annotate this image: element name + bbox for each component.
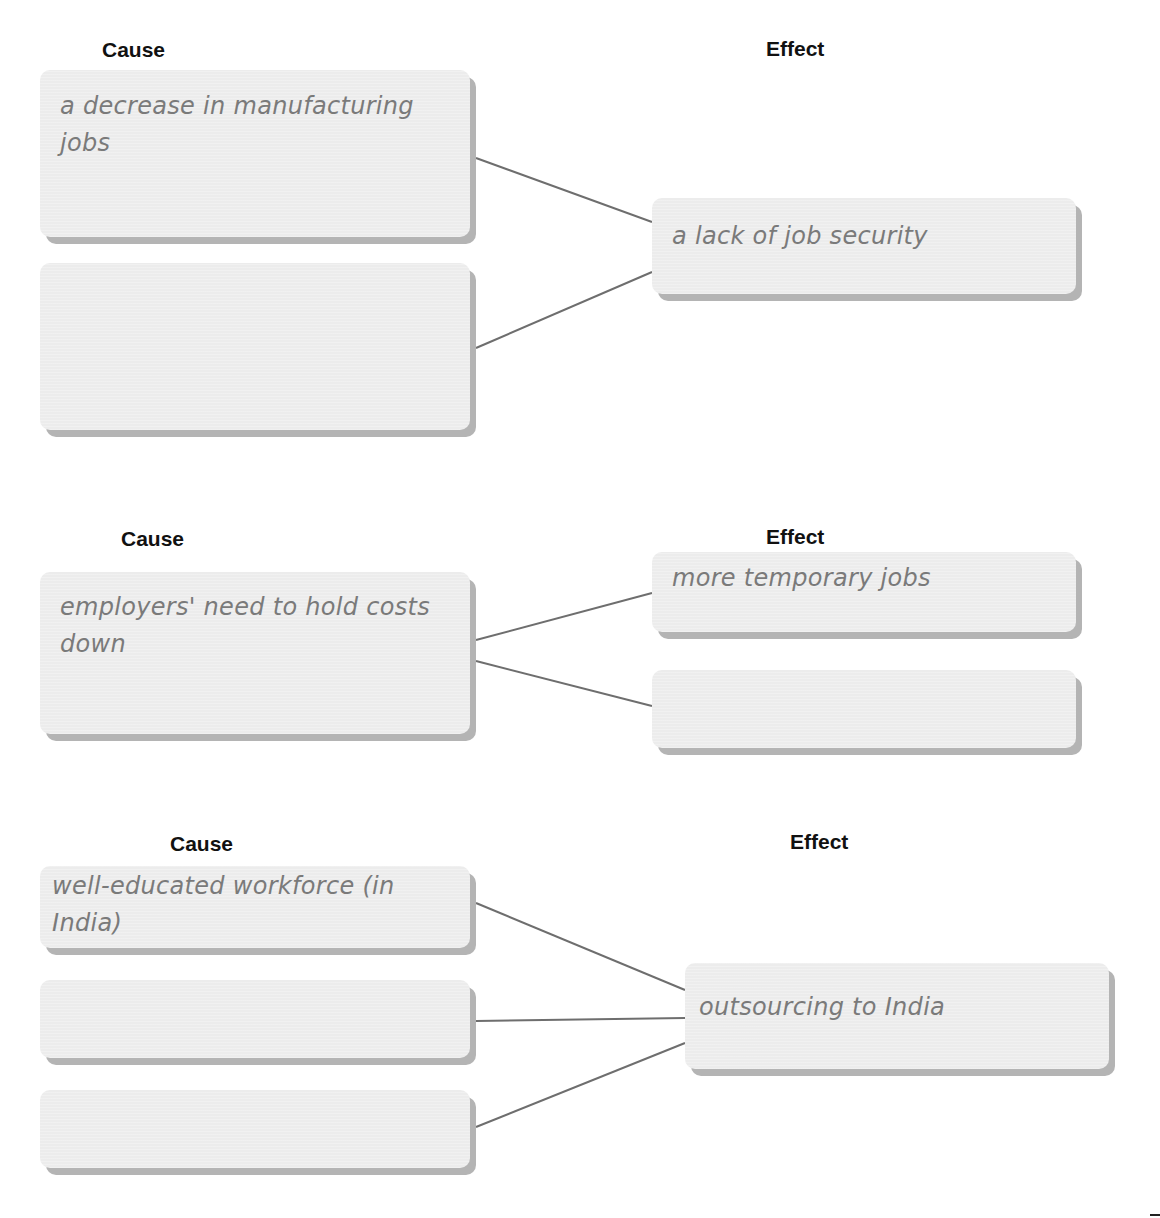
cause-text: a decrease in manufacturing jobs [60,88,450,162]
cause-text: well-educated workforce (in India) [52,868,458,942]
cause-heading: Cause [170,833,233,854]
connector-s1-cause1-effect1 [476,158,652,222]
effect-text: outsourcing to India [699,989,1089,1026]
cause-heading: Cause [121,528,184,549]
cause-heading: Cause [102,39,165,60]
cause-box[interactable]: employers' need to hold costs down [40,572,470,734]
cause-box[interactable]: a decrease in manufacturing jobs [40,70,470,237]
connector-s2-cause1-effect2 [476,661,652,706]
effect-box[interactable]: a lack of job security [652,198,1076,294]
cause-box-empty[interactable] [40,980,470,1058]
connector-s3-cause2-effect1 [476,1018,685,1021]
page-edge-mark [1150,1214,1160,1216]
effect-box[interactable]: more temporary jobs [652,552,1076,632]
cause-box-empty[interactable] [40,1090,470,1168]
cause-text: employers' need to hold costs down [60,589,450,663]
effect-text: a lack of job security [672,218,1056,255]
effect-text: more temporary jobs [672,560,1056,597]
cause-box[interactable]: well-educated workforce (in India) [40,866,470,948]
connector-s3-cause1-effect1 [476,903,685,990]
connector-s3-cause3-effect1 [476,1043,685,1127]
effect-heading: Effect [766,526,824,547]
effect-box[interactable]: outsourcing to India [685,963,1109,1069]
effect-heading: Effect [790,831,848,852]
effect-heading: Effect [766,38,824,59]
connector-s2-cause1-effect1 [476,593,652,640]
cause-box-empty[interactable] [40,263,470,430]
effect-box-empty[interactable] [652,670,1076,748]
connector-s1-cause2-effect1 [476,272,652,348]
